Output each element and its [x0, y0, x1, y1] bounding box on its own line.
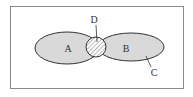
label-a: A: [64, 43, 72, 54]
venn-diagram: A B D C: [0, 0, 193, 97]
label-b: B: [123, 43, 130, 54]
label-d: D: [90, 14, 97, 25]
label-c: C: [151, 67, 158, 78]
set-b-ellipse: [98, 33, 164, 61]
intersection-d-circle: [86, 37, 106, 57]
